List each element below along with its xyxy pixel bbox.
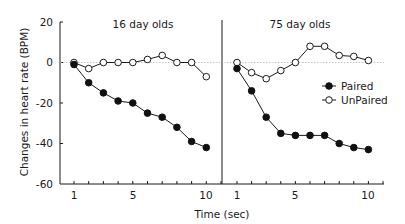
filled-circle-data-point xyxy=(365,146,372,153)
filled-circle-data-point xyxy=(321,132,328,139)
open-circle-icon xyxy=(326,97,333,104)
filled-circle-data-point xyxy=(292,132,299,139)
open-circle-data-point xyxy=(321,43,328,50)
filled-circle-data-point xyxy=(115,98,122,105)
y-tick-label: 0 xyxy=(46,56,53,68)
open-circle-data-point xyxy=(248,69,255,76)
filled-circle-data-point xyxy=(336,140,343,147)
x-axis-tick-labels: 1 5 10 1 5 10 xyxy=(71,189,375,201)
heart-rate-chart: Changes in heart rate (BPM) 20 0 -20 -40… xyxy=(0,0,405,224)
filled-circle-data-point xyxy=(174,124,181,131)
open-circle-data-point xyxy=(292,59,299,66)
legend-item-paired: Paired xyxy=(322,80,373,92)
filled-circle-data-point xyxy=(203,144,210,151)
open-circle-data-point xyxy=(100,59,107,66)
filled-circle-data-point xyxy=(307,132,314,139)
open-circle-data-point xyxy=(85,65,92,72)
y-axis-ticks: 20 0 -20 -40 -60 xyxy=(36,16,53,190)
filled-circle-icon xyxy=(326,83,333,90)
filled-circle-data-point xyxy=(159,114,166,121)
x-axis-title: Time (sec) xyxy=(194,208,250,220)
open-circle-data-point xyxy=(159,52,166,59)
legend-item-unpaired: UnPaired xyxy=(322,94,388,106)
filled-circle-data-point xyxy=(144,110,151,117)
filled-circle-data-point xyxy=(351,144,358,151)
open-circle-data-point xyxy=(351,53,358,60)
x-tick-label: 1 xyxy=(71,189,78,201)
y-tick-label: -60 xyxy=(36,178,53,190)
panel-title-16-day-olds: 16 day olds xyxy=(113,18,174,30)
y-tick-label: -40 xyxy=(36,137,53,149)
open-circle-data-point xyxy=(365,57,372,64)
open-circle-data-point xyxy=(144,56,151,63)
open-circle-data-point xyxy=(307,43,314,50)
x-tick-label: 10 xyxy=(361,189,374,201)
x-tick-label: 1 xyxy=(234,189,241,201)
open-circle-data-point xyxy=(336,52,343,59)
series-line-unpaired xyxy=(74,55,206,76)
open-circle-data-point xyxy=(188,59,195,66)
legend-label-paired: Paired xyxy=(341,80,373,92)
open-circle-data-point xyxy=(203,73,210,80)
y-tick-label: -20 xyxy=(36,97,53,109)
filled-circle-data-point xyxy=(71,61,78,68)
series-line-paired xyxy=(74,65,206,148)
open-circle-data-point xyxy=(263,75,270,82)
x-tick-label: 5 xyxy=(292,189,299,201)
legend-label-unpaired: UnPaired xyxy=(341,94,388,106)
open-circle-data-point xyxy=(174,59,181,66)
legend: Paired UnPaired xyxy=(322,80,388,106)
filled-circle-data-point xyxy=(248,88,255,95)
filled-circle-data-point xyxy=(188,138,195,145)
filled-circle-data-point xyxy=(234,65,241,72)
open-circle-data-point xyxy=(278,67,285,74)
filled-circle-data-point xyxy=(130,100,137,107)
filled-circle-data-point xyxy=(100,90,107,97)
x-tick-label: 5 xyxy=(130,189,137,201)
open-circle-data-point xyxy=(130,59,137,66)
y-tick-label: 20 xyxy=(40,16,53,28)
filled-circle-data-point xyxy=(263,114,270,121)
open-circle-data-point xyxy=(115,59,122,66)
panel-title-75-day-olds: 75 day olds xyxy=(270,18,331,30)
y-axis-title: Changes in heart rate (BPM) xyxy=(18,28,30,177)
filled-circle-data-point xyxy=(85,79,92,86)
filled-circle-data-point xyxy=(278,130,285,137)
x-tick-label: 10 xyxy=(199,189,212,201)
panel-16-day-olds-series xyxy=(71,52,210,151)
